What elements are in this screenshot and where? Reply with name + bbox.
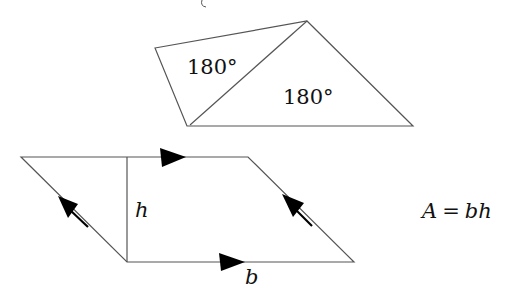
height-label: h <box>135 198 149 222</box>
triangle-right-angle-label: 180° <box>283 85 334 109</box>
bottom-edge-arrow-icon <box>219 253 245 271</box>
triangle-left-angle-label: 180° <box>187 55 238 79</box>
base-label: b <box>245 265 258 289</box>
top-edge-arrow-icon <box>160 148 186 167</box>
cropped-caption-glyph <box>202 0 207 7</box>
area-formula: A=bh <box>420 199 492 223</box>
